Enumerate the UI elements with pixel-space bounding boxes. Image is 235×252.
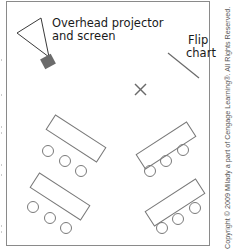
chair-icon <box>61 223 72 234</box>
room-layout-diagram: Overhead projector and screen Flip chart <box>0 0 235 252</box>
projector-label-line1: Overhead projector <box>52 16 164 30</box>
chair-icon <box>178 145 189 156</box>
table-top-right <box>136 122 196 176</box>
flipchart-label-line2: chart <box>186 46 216 60</box>
chair-icon <box>157 223 168 234</box>
presenter-position-x-icon <box>135 84 146 95</box>
table-bottom-left <box>28 173 90 233</box>
projector-icon <box>40 54 56 69</box>
chair-icon <box>76 166 87 177</box>
chair-icon <box>173 214 184 225</box>
chair-icon <box>45 213 56 224</box>
projection-screen-icon <box>17 18 49 57</box>
chair-icon <box>161 156 172 167</box>
chair-icon <box>145 166 156 177</box>
table-bottom-right <box>145 179 205 233</box>
left-edge-marks <box>1 60 2 232</box>
table-icon <box>30 173 90 220</box>
chair-icon <box>190 203 201 214</box>
chair-icon <box>28 202 39 213</box>
chair-icon <box>43 146 54 157</box>
flipchart-label-line1: Flip <box>188 33 208 47</box>
chair-icon <box>60 156 71 167</box>
table-top-left <box>43 115 106 176</box>
overhead-projector-and-screen <box>17 18 56 69</box>
table-icon <box>46 115 106 162</box>
projector-label-line2: and screen <box>52 29 116 43</box>
copyright-notice: Copyright © 2009 Milady a part of Cengag… <box>223 7 232 249</box>
